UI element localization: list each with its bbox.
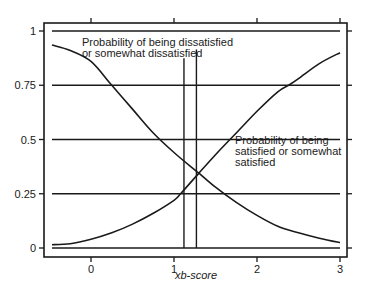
y-tick-label: 0.5 bbox=[21, 134, 36, 146]
y-tick-label: 0 bbox=[30, 242, 36, 254]
y-tick-label: 0.75 bbox=[15, 79, 36, 91]
annotations: Probability of being dissatisfiedor some… bbox=[82, 36, 341, 168]
x-tick-label: 2 bbox=[254, 263, 260, 275]
annotation-dissatisfied: Probability of being dissatisfiedor some… bbox=[82, 36, 233, 59]
x-tick-label: 0 bbox=[88, 263, 94, 275]
x-tick-label: 3 bbox=[337, 263, 343, 275]
y-tick-label: 1 bbox=[30, 25, 36, 37]
x-axis-label: xb-score bbox=[174, 269, 217, 281]
y-tick-label: 0.25 bbox=[15, 188, 36, 200]
annotation-satisfied: Probability of beingsatisfied or somewha… bbox=[235, 134, 341, 168]
chart: 012300.250.50.751 Probability of being d… bbox=[0, 0, 368, 298]
